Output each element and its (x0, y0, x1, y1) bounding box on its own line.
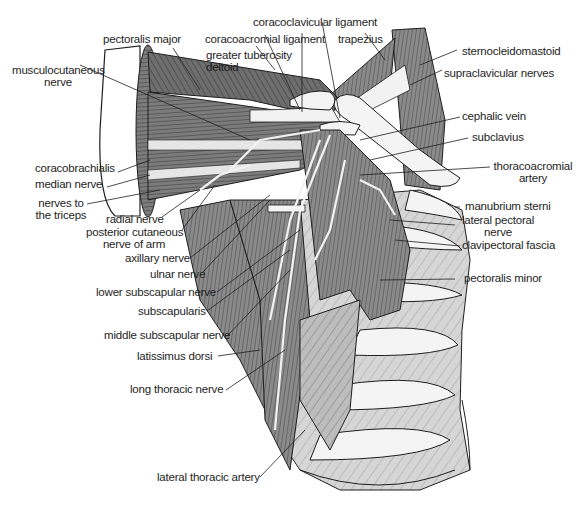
label-pectoralis-minor: pectoralis minor (464, 272, 542, 284)
label-axillary-nerve: axillary nerve (125, 252, 190, 264)
label-deltoid: deltoid (206, 61, 239, 73)
label-trapezius: trapezius (338, 33, 383, 45)
label-radial-nerve: radial nerve (106, 213, 164, 225)
label-line-2: nerve of arm (86, 238, 182, 250)
label-sternocleidomastoid: sternocleidomastoid (462, 45, 560, 57)
label-lateral-pectoral-nerve: lateral pectoral nerve (459, 214, 537, 238)
label-line-1: thoracoacromial (492, 160, 574, 172)
label-line-1: nerves to (35, 197, 87, 209)
label-subscapularis: subscapularis (138, 305, 206, 317)
label-manubrium-sterni: manubrium sterni (465, 200, 551, 212)
label-line-1: posterior cutaneous (86, 226, 182, 238)
label-cephalic-vein: cephalic vein (462, 110, 526, 122)
label-nerves-to-triceps: nerves to the triceps (35, 197, 87, 221)
label-greater-tuberosity: greater tuberosity (206, 49, 292, 61)
label-line-1: musculocutaneous (12, 64, 104, 76)
label-thoracoacromial-artery: thoracoacromial artery (492, 160, 574, 184)
label-line-1: lateral pectoral (459, 214, 537, 226)
label-musculocutaneous-nerve: musculocutaneous nerve (12, 64, 104, 88)
label-ulnar-nerve: ulnar nerve (150, 268, 205, 280)
label-coracobrachialis: coracobrachialis (35, 162, 115, 174)
label-median-nerve: median nerve (35, 178, 102, 190)
label-posterior-cutaneous-nerve-of-arm: posterior cutaneous nerve of arm (86, 226, 182, 250)
label-lower-subscapular-nerve: lower subscapular nerve (96, 286, 216, 298)
label-line-2: the triceps (35, 209, 87, 221)
label-lateral-thoracic-artery: lateral thoracic artery (157, 471, 260, 483)
label-clavipectoral-fascia: clavipectoral fascia (462, 239, 555, 251)
label-supraclavicular-nerves: supraclavicular nerves (444, 67, 554, 79)
label-long-thoracic-nerve: long thoracic nerve (130, 383, 223, 395)
label-latissimus-dorsi: latissimus dorsi (137, 350, 212, 362)
label-pectoralis-major: pectoralis major (103, 33, 181, 45)
label-line-2: nerve (459, 226, 537, 238)
label-middle-subscapular-nerve: middle subscapular nerve (104, 329, 230, 341)
label-subclavius: subclavius (472, 131, 524, 143)
label-coracoacromial-ligament: coracoacromial ligament (205, 33, 325, 45)
label-line-2: artery (492, 172, 574, 184)
label-coracoclavicular-ligament: coracoclavicular ligament (253, 16, 377, 28)
label-line-2: nerve (12, 76, 104, 88)
